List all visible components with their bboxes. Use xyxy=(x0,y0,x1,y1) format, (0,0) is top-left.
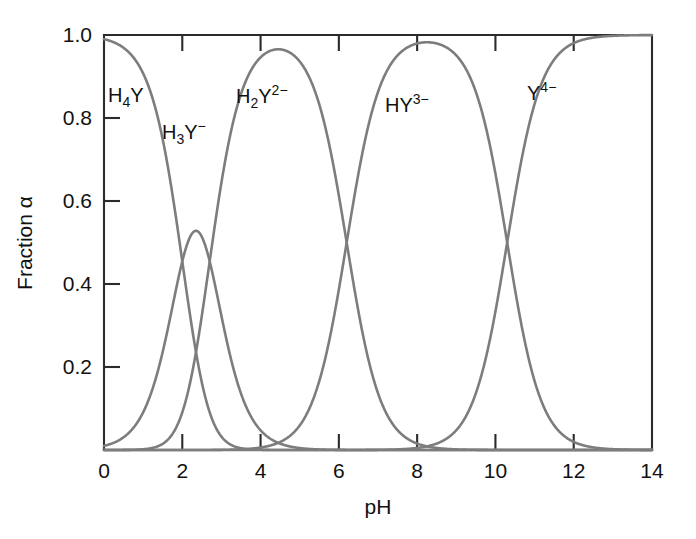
y-tick-label: 0.6 xyxy=(63,189,92,212)
speciation-chart-figure: 02468101214 0.20.40.60.81.0 pH Fraction … xyxy=(0,0,696,539)
y-tick-label: 0.8 xyxy=(63,106,92,129)
x-axis-title: pH xyxy=(365,495,392,518)
curve-h3y xyxy=(104,231,652,450)
x-tick-label: 10 xyxy=(484,459,507,482)
curve-y4 xyxy=(104,35,652,450)
axis-frame-path xyxy=(104,35,652,450)
axes-frame xyxy=(104,35,652,450)
chart-canvas: 02468101214 0.20.40.60.81.0 pH Fraction … xyxy=(0,0,696,539)
species-curves xyxy=(104,35,652,450)
x-tick-label: 2 xyxy=(176,459,188,482)
annotation-hy: HY3− xyxy=(385,91,429,116)
y-tick-label: 0.4 xyxy=(63,272,93,295)
y-axis-ticks xyxy=(104,118,120,367)
x-tick-label: 4 xyxy=(255,459,267,482)
x-tick-label: 6 xyxy=(333,459,345,482)
annotation-h2y: H2Y2− xyxy=(236,82,288,111)
annotation-h4y: H4Y xyxy=(108,84,144,110)
y-tick-label: 0.2 xyxy=(63,355,92,378)
y-axis-title: Fraction α xyxy=(13,196,36,290)
y-axis-tick-labels: 0.20.40.60.81.0 xyxy=(63,23,93,378)
annotation-h3y: H3Y− xyxy=(162,118,206,147)
y-tick-label: 1.0 xyxy=(63,23,92,46)
x-tick-label: 8 xyxy=(411,459,423,482)
x-tick-label: 12 xyxy=(562,459,585,482)
x-tick-label: 14 xyxy=(640,459,664,482)
annotation-y: Y4− xyxy=(527,79,556,104)
x-tick-label: 0 xyxy=(98,459,110,482)
x-axis-tick-labels: 02468101214 xyxy=(98,459,664,482)
